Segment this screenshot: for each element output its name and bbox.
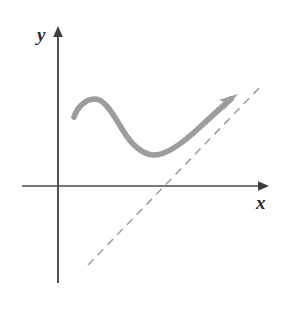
x-axis-arrowhead-icon	[258, 181, 269, 191]
gray-curve-path	[74, 99, 231, 155]
gray-curve	[74, 94, 238, 155]
y-axis-arrowhead-icon	[53, 26, 63, 37]
graph-canvas	[0, 0, 297, 313]
x-axis-label: x	[256, 193, 266, 212]
y-axis-label: y	[37, 25, 45, 44]
y-axis	[53, 26, 63, 283]
graph-figure: y x	[0, 0, 297, 313]
x-axis	[22, 181, 269, 191]
